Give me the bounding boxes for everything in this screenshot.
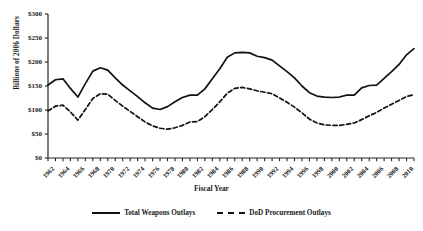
chart-legend: Total Weapons Outlays DoD Procurement Ou… xyxy=(0,209,423,217)
y-tick-label: $250 xyxy=(4,34,42,42)
legend-item-total-weapons-outlays: Total Weapons Outlays xyxy=(92,209,195,217)
y-tick-label: $0 xyxy=(4,154,42,162)
solid-line-swatch-icon xyxy=(92,212,120,214)
chart-figure: Billions of 2006 Dollars Fiscal Year Tot… xyxy=(0,0,423,231)
y-tick-label: $150 xyxy=(4,82,42,90)
axis-spines xyxy=(48,14,414,158)
series-line-total-weapons-outlays xyxy=(48,49,414,110)
series-line-dod-procurement-outlays xyxy=(48,87,414,129)
y-tick-label: $50 xyxy=(4,130,42,138)
y-tick-label: $200 xyxy=(4,58,42,66)
y-tick-label: $300 xyxy=(4,10,42,18)
y-tick-label: $100 xyxy=(4,106,42,114)
legend-label-dod-procurement-outlays: DoD Procurement Outlays xyxy=(249,209,331,217)
